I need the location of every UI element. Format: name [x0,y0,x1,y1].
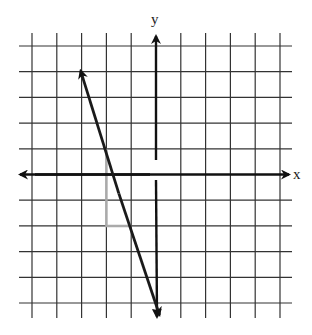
graphed-line [81,71,160,315]
axes [20,36,289,317]
coordinate-graph: y x [0,0,312,335]
x-axis-label: x [293,166,301,182]
slope-triangle [106,149,131,226]
y-axis-label: y [151,11,159,27]
line-segment-lower [119,193,160,315]
y-axis-negative [156,180,157,317]
slope-triangle-legs [106,149,131,226]
